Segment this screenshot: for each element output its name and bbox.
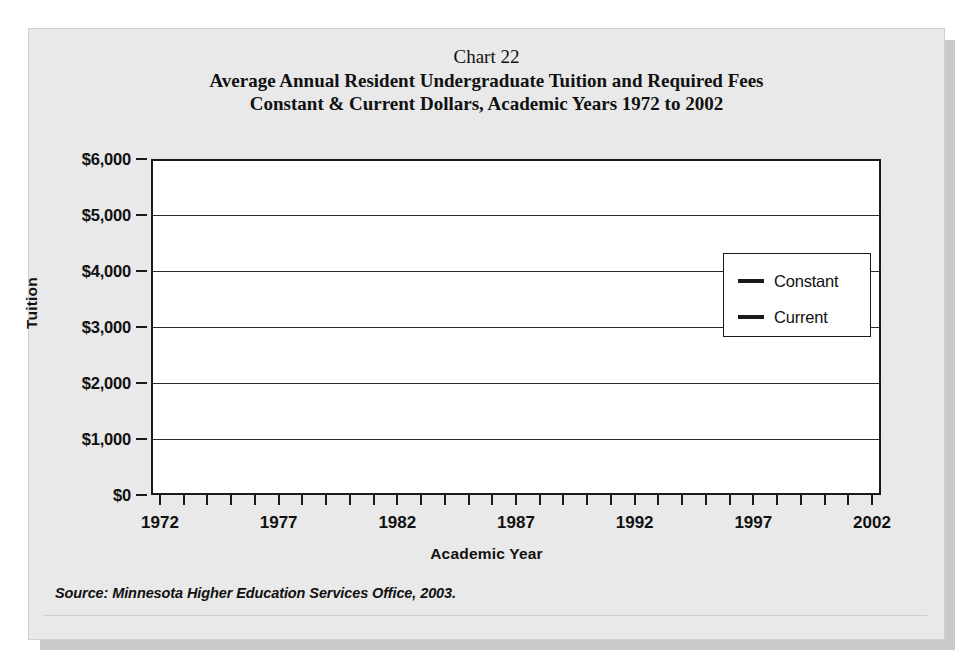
x-axis-tick-label: 1992 — [616, 513, 654, 533]
y-axis-tick — [136, 494, 147, 496]
x-axis-tick — [183, 495, 185, 505]
x-axis-tick — [752, 495, 754, 505]
x-axis-ticks — [151, 495, 881, 506]
legend-swatch — [738, 279, 764, 284]
x-axis-tick — [515, 495, 517, 505]
legend-item-constant: Constant — [738, 270, 838, 292]
x-axis-tick — [586, 495, 588, 505]
x-axis-tick — [776, 495, 778, 505]
y-axis-tick — [136, 158, 147, 160]
x-axis-tick — [301, 495, 303, 505]
y-axis-tick — [136, 214, 147, 216]
x-axis-tick-label: 1982 — [378, 513, 416, 533]
x-axis-tick — [373, 495, 375, 505]
x-axis-tick-label: 2002 — [853, 513, 891, 533]
x-axis-tick — [610, 495, 612, 505]
x-axis-tick — [420, 495, 422, 505]
x-axis-tick — [278, 495, 280, 505]
y-axis-tick-label: $2,000 — [82, 374, 131, 393]
x-axis-labels: 1972197719821987199219972002 — [151, 513, 881, 541]
x-axis-tick — [325, 495, 327, 505]
x-axis-tick — [468, 495, 470, 505]
y-axis-tick-label: $0 — [113, 486, 131, 505]
legend-label: Current — [774, 308, 828, 327]
y-axis-tick-label: $3,000 — [82, 318, 131, 337]
y-axis-tick — [136, 438, 147, 440]
x-axis-tick — [159, 495, 161, 505]
x-axis-tick — [206, 495, 208, 505]
y-axis-tick-label: $1,000 — [82, 430, 131, 449]
x-axis-tick — [657, 495, 659, 505]
x-axis-tick-label: 1977 — [260, 513, 298, 533]
legend-label: Constant — [774, 272, 838, 291]
x-axis-tick — [871, 495, 873, 505]
x-axis-tick — [800, 495, 802, 505]
y-axis-tick — [136, 326, 147, 328]
chart-card: Chart 22 Average Annual Resident Undergr… — [28, 28, 945, 640]
x-axis-tick — [396, 495, 398, 505]
y-axis-tick-label: $4,000 — [82, 262, 131, 281]
x-axis-tick — [705, 495, 707, 505]
x-axis-tick — [634, 495, 636, 505]
x-axis-title: Academic Year — [29, 545, 944, 563]
x-axis-tick — [824, 495, 826, 505]
legend-swatch — [738, 315, 764, 320]
x-axis-tick — [230, 495, 232, 505]
y-axis-tick — [136, 382, 147, 384]
y-axis-labels: $0$1,000$2,000$3,000$4,000$5,000$6,000 — [29, 147, 147, 507]
x-axis-tick — [562, 495, 564, 505]
gridline — [151, 215, 881, 216]
chart-title-line2: Constant & Current Dollars, Academic Yea… — [29, 92, 944, 115]
title-block: Chart 22 Average Annual Resident Undergr… — [29, 45, 944, 115]
chart-title-line1: Average Annual Resident Undergraduate Tu… — [29, 69, 944, 92]
gridline — [151, 383, 881, 384]
x-axis-tick — [729, 495, 731, 505]
chart-number: Chart 22 — [29, 45, 944, 69]
x-axis-tick — [349, 495, 351, 505]
legend: ConstantCurrent — [723, 253, 871, 337]
chart-screenshot: Chart 22 Average Annual Resident Undergr… — [0, 0, 975, 670]
y-axis-tick — [136, 270, 147, 272]
x-axis-tick — [681, 495, 683, 505]
x-axis-tick — [491, 495, 493, 505]
x-axis-tick-label: 1987 — [497, 513, 535, 533]
x-axis-tick — [254, 495, 256, 505]
y-axis-tick-label: $6,000 — [82, 150, 131, 169]
source-divider — [43, 615, 927, 616]
source-note: Source: Minnesota Higher Education Servi… — [55, 585, 456, 601]
legend-item-current: Current — [738, 306, 828, 328]
y-axis-tick-label: $5,000 — [82, 206, 131, 225]
x-axis-tick-label: 1997 — [734, 513, 772, 533]
x-axis-tick — [444, 495, 446, 505]
x-axis-tick — [847, 495, 849, 505]
x-axis-tick-label: 1972 — [141, 513, 179, 533]
gridline — [151, 439, 881, 440]
x-axis-tick — [539, 495, 541, 505]
